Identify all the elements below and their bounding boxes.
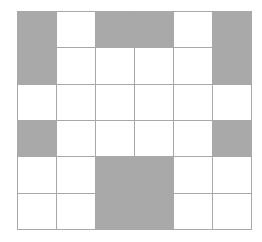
grid-cell-r3-c1 [57,121,96,157]
grid-cell-r1-c3 [135,48,174,84]
grid-cell-r2-c4 [174,85,213,121]
grid-cell-r4-c0 [18,157,57,193]
grid-cell-r0-c3 [135,12,174,48]
grid-cell-r4-c5 [213,157,252,193]
grid-cell-r5-c1 [57,194,96,230]
grid-cell-r4-c4 [174,157,213,193]
grid-cell-r1-c5 [213,48,252,84]
grid-cell-r2-c3 [135,85,174,121]
grid-cell-r2-c0 [18,85,57,121]
grid-cell-r4-c2 [96,157,135,193]
grid-cell-r3-c4 [174,121,213,157]
grid-cell-r0-c0 [18,12,57,48]
grid-cell-r1-c2 [96,48,135,84]
pattern-grid [17,11,252,230]
grid-cell-r1-c4 [174,48,213,84]
grid-cell-r5-c3 [135,194,174,230]
grid-cell-r3-c5 [213,121,252,157]
grid-cell-r1-c0 [18,48,57,84]
grid-cell-r0-c2 [96,12,135,48]
grid-cell-r0-c4 [174,12,213,48]
grid-cell-r3-c3 [135,121,174,157]
grid-cell-r5-c2 [96,194,135,230]
grid-cell-r1-c1 [57,48,96,84]
grid-cell-r2-c2 [96,85,135,121]
grid-cell-r5-c0 [18,194,57,230]
grid-cell-r2-c5 [213,85,252,121]
grid-cell-r3-c0 [18,121,57,157]
grid-cell-r4-c1 [57,157,96,193]
grid-cell-r5-c4 [174,194,213,230]
grid-cell-r0-c5 [213,12,252,48]
grid-cell-r2-c1 [57,85,96,121]
grid-cell-r0-c1 [57,12,96,48]
grid-cell-r5-c5 [213,194,252,230]
grid-cell-r4-c3 [135,157,174,193]
grid-cell-r3-c2 [96,121,135,157]
